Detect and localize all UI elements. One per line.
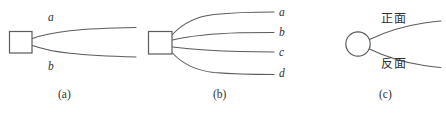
panel-c-node-circle [346,32,370,56]
panel-b-branch-b-curve [173,32,275,40]
panel-b-caption: (b) [213,89,226,101]
panel-b-label-a: a [279,7,285,19]
panel-b-node-square [149,32,173,55]
panel-b-label-b: b [279,27,285,39]
panel-b-branch-a-curve [173,12,275,35]
panel-a-node-square [10,32,33,54]
panel-b-label-c: c [279,47,284,59]
panel-a-caption: (a) [58,89,71,101]
panel-a-branch-b-curve [33,46,137,58]
panel-a-label-b: b [48,61,54,73]
panel-b-branch-c-curve [173,47,275,52]
panel-c-caption: (c) [379,89,392,101]
panel-a-label-a: a [48,12,54,24]
panel-c-label-front: 正面 [381,13,406,25]
panel-b-label-d: d [279,68,285,80]
figure-container: a b (a) a b c d (b) 正面 反面 (c) [0,0,446,113]
panel-b-branch-d-curve [173,53,275,75]
panel-a-branch-a-curve [33,28,137,39]
panel-c-label-back: 反面 [381,58,406,70]
